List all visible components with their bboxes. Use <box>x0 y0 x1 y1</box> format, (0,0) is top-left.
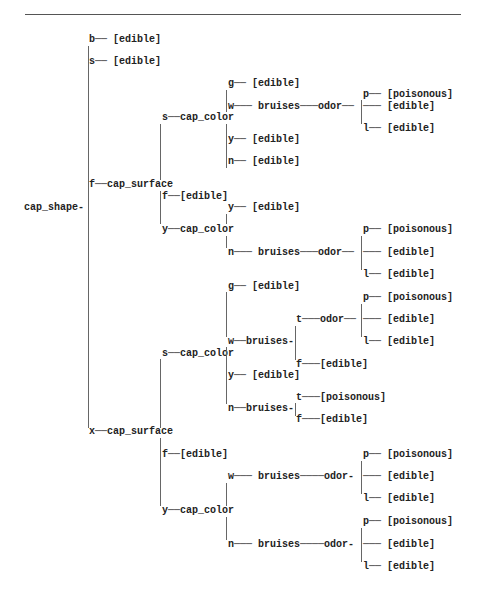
branch-connector-line <box>226 124 227 168</box>
branch-connector-line <box>295 326 296 360</box>
tree-node-fy_y: y── [edible] <box>228 202 300 214</box>
tree-node-xy_n_l: l── [edible] <box>363 561 435 573</box>
tree-node-f_f: f──[edible] <box>162 191 228 203</box>
tree-node-root: cap_shape- <box>24 202 84 214</box>
tree-node-fs_w_e: ─── [edible] <box>363 101 435 113</box>
branch-connector-line <box>160 359 161 428</box>
tree-node-x_s_color: s──cap_color <box>162 348 234 360</box>
tree-node-xs_w_f: f───[edible] <box>296 359 368 371</box>
tree-node-xs_n_t: t───[poisonous] <box>296 392 386 404</box>
tree-node-xy_n_p: p── [poisonous] <box>363 516 453 528</box>
tree-node-xy_w_e: ─── [edible] <box>363 471 435 483</box>
branch-connector-line <box>295 403 296 416</box>
tree-node-xs_y: y── [edible] <box>228 370 300 382</box>
tree-node-xy_w: w─── bruises────odor- <box>228 471 354 483</box>
branch-connector-line <box>361 528 362 562</box>
tree-node-fs_w_p: p── [poisonous] <box>363 89 453 101</box>
tree-node-xs_n: n──bruises- <box>228 403 294 415</box>
branch-connector-line <box>160 124 161 180</box>
branch-connector-line <box>226 236 227 248</box>
tree-node-xy_w_p: p── [poisonous] <box>363 449 453 461</box>
tree-node-s: s── [edible] <box>89 56 161 68</box>
tree-node-x_y_color: y──cap_color <box>162 505 234 517</box>
tree-node-xs_w: w──bruises- <box>228 336 294 348</box>
branch-connector-line <box>226 214 227 224</box>
top-divider <box>25 14 461 15</box>
tree-node-fy_n_l: l── [edible] <box>363 269 435 281</box>
branch-connector-line <box>361 236 362 270</box>
branch-connector-line <box>160 191 161 224</box>
tree-node-fy_n: n─── bruises───odor── <box>228 247 354 259</box>
branch-connector-line <box>361 461 362 494</box>
tree-node-xs_w_t_e: ─── [edible] <box>363 314 435 326</box>
branch-connector-line <box>226 90 227 112</box>
tree-node-xy_w_l: l── [edible] <box>363 493 435 505</box>
tree-node-f_surface: f──cap_surface <box>89 179 173 191</box>
tree-node-xs_w_t_p: p── [poisonous] <box>363 292 453 304</box>
tree-node-fs_w_l: l── [edible] <box>363 123 435 135</box>
tree-node-x_f: f──[edible] <box>162 449 228 461</box>
tree-node-fy_n_e: ─── [edible] <box>363 247 435 259</box>
tree-node-fs_y: y── [edible] <box>228 134 300 146</box>
tree-node-b: b── [edible] <box>89 34 161 46</box>
tree-node-xy_n: n─── bruises────odor- <box>228 539 354 551</box>
tree-node-fs_g: g── [edible] <box>228 78 300 90</box>
tree-node-fs_w: w─── bruises───odor── <box>228 101 354 113</box>
branch-connector-line <box>361 100 362 124</box>
tree-node-f_s_color: s──cap_color <box>162 112 234 124</box>
branch-connector-line <box>226 517 227 540</box>
tree-node-xs_n_f: f───[edible] <box>296 414 368 426</box>
branch-connector-line <box>226 347 227 404</box>
tree-node-xs_w_t: t───odor── <box>296 314 356 326</box>
branch-connector-line <box>361 304 362 337</box>
tree-node-f_y_color: y──cap_color <box>162 224 234 236</box>
tree-node-xs_w_t_l: l── [edible] <box>363 336 435 348</box>
tree-node-xs_g: g── [edible] <box>228 281 300 293</box>
branch-connector-line <box>226 292 227 337</box>
branch-connector-line <box>160 438 161 506</box>
tree-node-fs_n: n── [edible] <box>228 156 300 168</box>
branch-connector-line <box>226 483 227 506</box>
tree-node-fy_n_p: p── [poisonous] <box>363 224 453 236</box>
tree-node-xy_n_e: ─── [edible] <box>363 539 435 551</box>
branch-connector-line <box>88 46 89 428</box>
